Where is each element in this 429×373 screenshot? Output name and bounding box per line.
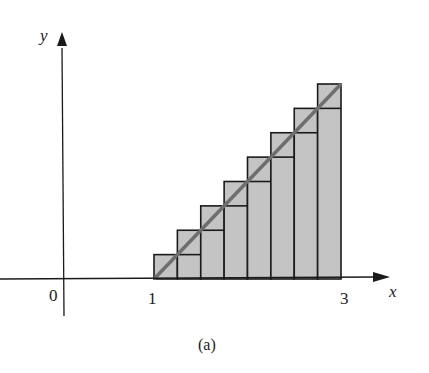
riemann-sum-figure	[0, 0, 429, 373]
upper-rectangle	[294, 108, 317, 279]
y-axis-label: y	[40, 27, 48, 44]
x-axis-label: x	[389, 283, 397, 300]
upper-rectangle	[318, 84, 341, 279]
figure-caption: (a)	[198, 337, 216, 353]
y-axis-arrow-icon	[57, 32, 67, 46]
tick-label-1: 1	[148, 290, 157, 307]
y-axis	[62, 48, 64, 316]
x-axis-arrow-icon	[373, 272, 390, 282]
origin-label: 0	[49, 287, 58, 304]
tick-label-3: 3	[340, 290, 349, 307]
